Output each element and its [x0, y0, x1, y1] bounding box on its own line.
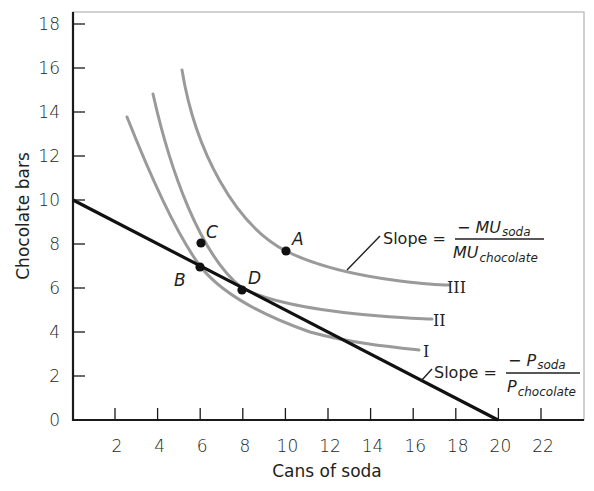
y-tick-label: 2: [49, 366, 60, 386]
y-tick-label: 4: [49, 322, 60, 342]
y-tick-label: 12: [38, 146, 60, 166]
y-tick-label: 14: [38, 102, 60, 122]
x-tick-label: 2: [112, 436, 123, 456]
point-c-marker: [196, 238, 205, 247]
y-tick-label: 18: [38, 14, 60, 34]
y-tick-label: 8: [49, 234, 60, 254]
x-tick-label: 16: [404, 436, 426, 456]
curve-label-ii: II: [433, 311, 446, 330]
point-b-marker: [195, 262, 204, 271]
x-tick-label: 8: [239, 436, 250, 456]
x-tick-label: 4: [154, 436, 165, 456]
y-tick-label: 6: [49, 278, 60, 298]
point-d-label: D: [248, 268, 261, 288]
mu-slope-prefix: Slope =: [383, 229, 446, 248]
y-tick-label: 0: [49, 410, 60, 430]
point-d-marker: [237, 285, 246, 294]
x-tick-label: 10: [277, 436, 299, 456]
point-a-marker: [281, 246, 290, 255]
point-b-label: B: [174, 270, 186, 290]
x-tick-label: 18: [447, 436, 469, 456]
x-tick-label: 22: [532, 436, 554, 456]
y-axis-title: Chocolate bars: [13, 152, 33, 280]
y-tick-label: 16: [38, 58, 60, 78]
curve-label-i: I: [423, 342, 429, 361]
indifference-curve-chart: 024681012141618 246810121416182022 A C B…: [0, 0, 594, 491]
point-a-label: A: [291, 229, 304, 249]
x-axis-title: Cans of soda: [272, 461, 382, 481]
x-tick-label: 20: [490, 436, 512, 456]
x-tick-label: 12: [319, 436, 341, 456]
x-tick-label: 14: [362, 436, 384, 456]
x-tick-label: 6: [197, 436, 208, 456]
p-slope-prefix: Slope =: [434, 363, 497, 382]
curve-label-iii: III: [447, 278, 466, 297]
point-c-label: C: [206, 222, 218, 242]
y-tick-label: 10: [38, 190, 60, 210]
